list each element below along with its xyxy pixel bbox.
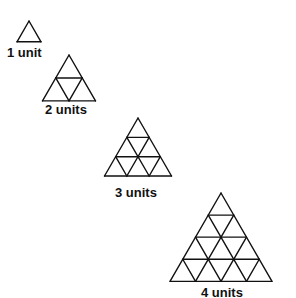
label-2-units: 2 units xyxy=(45,103,87,116)
triangle-figure-1 xyxy=(17,21,41,42)
triangle-pattern-diagram xyxy=(0,0,296,298)
label-1-unit: 1 unit xyxy=(7,46,42,59)
label-3-units: 3 units xyxy=(115,186,157,199)
triangle-figure-4 xyxy=(170,193,272,281)
triangle-figure-2 xyxy=(43,55,96,101)
triangle-figure-3 xyxy=(105,118,172,176)
label-4-units: 4 units xyxy=(201,286,243,298)
